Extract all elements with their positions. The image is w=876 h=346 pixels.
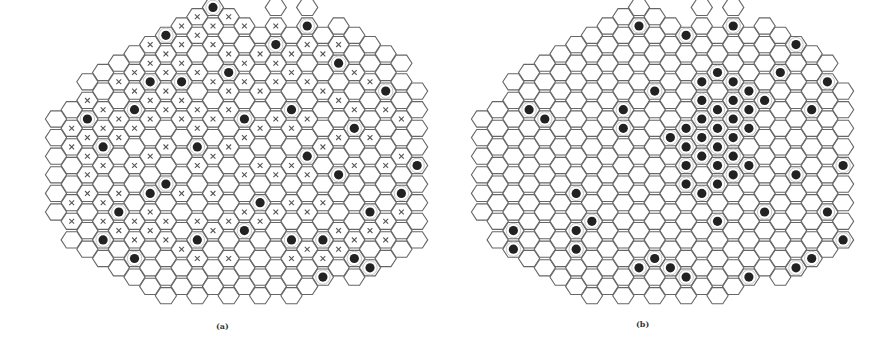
filled-dot-icon [729, 133, 738, 142]
hex-cell [833, 83, 854, 99]
filled-dot-icon [744, 273, 753, 282]
filled-dot-icon [791, 40, 800, 49]
filled-dot-icon [729, 96, 738, 105]
filled-dot-icon [744, 124, 753, 133]
hex-cell [817, 55, 838, 71]
filled-dot-icon [760, 96, 769, 105]
hex-grid-b [426, 0, 876, 346]
hex-cell [833, 176, 854, 192]
filled-dot-icon [193, 235, 202, 244]
filled-dot-icon [303, 152, 312, 161]
filled-dot-icon [682, 142, 691, 151]
filled-dot-icon [697, 77, 706, 86]
hex-cell [833, 102, 854, 118]
filled-dot-icon [744, 87, 753, 96]
filled-dot-icon [287, 105, 296, 114]
hex-cell [407, 102, 428, 118]
filled-dot-icon [83, 114, 92, 123]
filled-dot-icon [776, 68, 785, 77]
filled-dot-icon [807, 105, 816, 114]
caption-a: (a) [216, 321, 229, 331]
hex-cell [833, 139, 854, 155]
filled-dot-icon [744, 161, 753, 170]
hex-cell [691, 0, 712, 16]
filled-dot-icon [572, 245, 581, 254]
filled-dot-icon [318, 273, 327, 282]
filled-dot-icon [587, 217, 596, 226]
panel-a-hex-grid [0, 0, 430, 346]
filled-dot-icon [350, 254, 359, 263]
hex-grid-a [0, 0, 430, 346]
hex-cell [407, 213, 428, 229]
filled-dot-icon [697, 96, 706, 105]
filled-dot-icon [146, 77, 155, 86]
filled-dot-icon [713, 161, 722, 170]
filled-dot-icon [572, 226, 581, 235]
filled-dot-icon [365, 263, 374, 272]
filled-dot-icon [130, 254, 139, 263]
filled-dot-icon [839, 161, 848, 170]
filled-dot-icon [666, 133, 675, 142]
filled-dot-icon [634, 21, 643, 30]
hex-cell [833, 120, 854, 136]
filled-dot-icon [318, 235, 327, 244]
filled-dot-icon [193, 142, 202, 151]
filled-dot-icon [682, 273, 691, 282]
filled-dot-icon [791, 263, 800, 272]
filled-dot-icon [760, 207, 769, 216]
filled-dot-icon [807, 254, 816, 263]
filled-dot-icon [271, 40, 280, 49]
hex-cell [833, 195, 854, 211]
hex-cell [407, 120, 428, 136]
hex-cell [407, 195, 428, 211]
filled-dot-icon [240, 226, 249, 235]
filled-dot-icon [839, 235, 848, 244]
filled-dot-icon [682, 31, 691, 40]
filled-dot-icon [619, 105, 628, 114]
caption-b: (b) [636, 319, 649, 329]
filled-dot-icon [729, 114, 738, 123]
filled-dot-icon [99, 142, 108, 151]
filled-dot-icon [634, 263, 643, 272]
filled-dot-icon [729, 21, 738, 30]
hex-cell [833, 213, 854, 229]
filled-dot-icon [697, 114, 706, 123]
filled-dot-icon [99, 235, 108, 244]
filled-dot-icon [729, 170, 738, 179]
filled-dot-icon [713, 68, 722, 77]
filled-dot-icon [334, 170, 343, 179]
filled-dot-icon [303, 21, 312, 30]
filled-dot-icon [682, 124, 691, 133]
filled-dot-icon [413, 161, 422, 170]
filled-dot-icon [666, 263, 675, 272]
filled-dot-icon [240, 114, 249, 123]
filled-dot-icon [177, 77, 186, 86]
panel-b-hex-grid [426, 0, 876, 346]
filled-dot-icon [697, 189, 706, 198]
filled-dot-icon [713, 105, 722, 114]
filled-dot-icon [509, 245, 518, 254]
filled-dot-icon [729, 77, 738, 86]
filled-dot-icon [713, 217, 722, 226]
filled-dot-icon [381, 87, 390, 96]
filled-dot-icon [161, 31, 170, 40]
filled-dot-icon [130, 105, 139, 114]
filled-dot-icon [334, 59, 343, 68]
filled-dot-icon [256, 198, 265, 207]
hex-cell [407, 83, 428, 99]
hex-cell [391, 55, 412, 71]
filled-dot-icon [287, 235, 296, 244]
filled-dot-icon [823, 77, 832, 86]
filled-dot-icon [540, 114, 549, 123]
filled-dot-icon [525, 105, 534, 114]
hex-cell [407, 176, 428, 192]
filled-dot-icon [350, 124, 359, 133]
filled-dot-icon [729, 152, 738, 161]
hex-cell [297, 0, 318, 16]
filled-dot-icon [572, 189, 581, 198]
hex-cell [407, 232, 428, 248]
filled-dot-icon [208, 3, 217, 12]
filled-dot-icon [697, 133, 706, 142]
filled-dot-icon [682, 161, 691, 170]
filled-dot-icon [224, 68, 233, 77]
